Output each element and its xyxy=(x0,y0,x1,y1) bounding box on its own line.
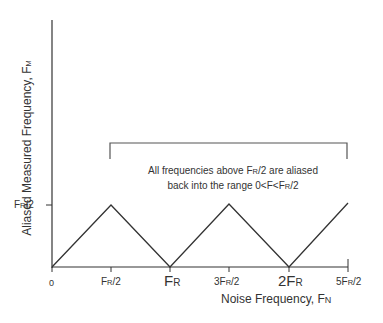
x-tick-fr: FR xyxy=(164,272,180,289)
x-tick-3fr-half: 3FR/2 xyxy=(214,276,239,287)
aliasing-annotation: All frequencies above FR/2 are aliased b… xyxy=(148,164,318,194)
aliased-frequency-line xyxy=(52,203,348,267)
x-axis-label: Noise Frequency, FN xyxy=(221,292,331,306)
aliasing-diagram xyxy=(0,0,383,323)
annotation-bracket xyxy=(110,143,347,159)
annotation-line-2: back into the range 0<F<FR/2 xyxy=(148,179,318,194)
x-tick-fr-half: FR/2 xyxy=(101,276,121,287)
x-tick-0: 0 xyxy=(49,278,54,288)
x-tick-5fr-half: 5FR/2 xyxy=(336,276,361,287)
x-tick-2fr: 2FR xyxy=(278,272,303,289)
annotation-line-1: All frequencies above FR/2 are aliased xyxy=(148,164,318,179)
y-tick-label: FR/2 xyxy=(14,199,34,210)
x-ticks xyxy=(52,259,348,272)
